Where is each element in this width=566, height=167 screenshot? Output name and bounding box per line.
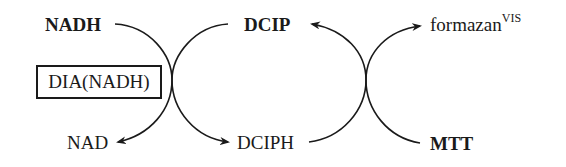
arrow-mtt-to-formazan bbox=[366, 26, 420, 143]
formazan-base: formazan bbox=[430, 14, 502, 35]
label-mtt: MTT bbox=[430, 134, 473, 153]
label-nadh: NADH bbox=[45, 15, 101, 34]
arrow-dciph-to-dcip bbox=[309, 24, 366, 142]
label-dcip: DCIP bbox=[244, 15, 290, 34]
formazan-superscript: VIS bbox=[502, 11, 521, 25]
label-nad: NAD bbox=[67, 133, 108, 152]
arrow-dcip-to-dciph bbox=[172, 24, 228, 142]
label-dciph: DCIPH bbox=[237, 133, 294, 152]
label-enzyme: DIA(NADH) bbox=[48, 71, 149, 93]
enzyme-box: DIA(NADH) bbox=[36, 65, 162, 99]
label-formazan: formazanVIS bbox=[430, 15, 521, 34]
